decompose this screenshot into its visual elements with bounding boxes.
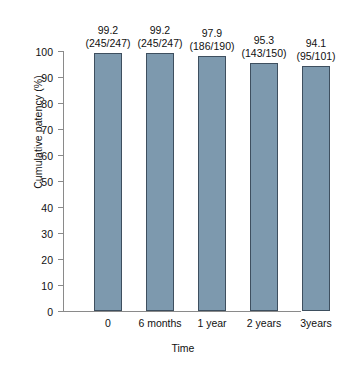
x-axis-tick-label: 6 months	[138, 317, 181, 329]
y-axis-line	[63, 51, 64, 311]
bar-value-label: 99.2(245/247)	[138, 24, 183, 50]
bar-fraction-label: (95/101)	[296, 50, 335, 63]
bar-value-label: 97.9(186/190)	[190, 27, 235, 53]
y-axis-tick-label: 50	[41, 176, 53, 188]
bar-percent-label: 99.2	[86, 24, 131, 37]
bar: 95.3(143/150)	[250, 63, 278, 311]
bar-percent-label: 97.9	[190, 27, 235, 40]
bar-percent-label: 99.2	[138, 24, 183, 37]
bar-fraction-label: (245/247)	[86, 37, 131, 50]
y-axis-tick-label: 80	[41, 98, 53, 110]
bar: 94.1(95/101)	[302, 66, 330, 311]
bar-value-label: 99.2(245/247)	[86, 24, 131, 50]
y-axis-tick: 100	[58, 51, 63, 52]
y-axis-tick-label: 40	[41, 202, 53, 214]
y-axis-tick-label: 70	[41, 124, 53, 136]
plot-area: 1009080706050403020100 99.2(245/247)99.2…	[63, 51, 301, 311]
y-axis-tick: 40	[58, 207, 63, 208]
bar: 99.2(245/247)	[146, 53, 174, 311]
y-axis-tick-label: 60	[41, 150, 53, 162]
bar-fraction-label: (245/247)	[138, 37, 183, 50]
y-axis-tick: 20	[58, 259, 63, 260]
x-axis-title: Time	[58, 342, 308, 354]
y-axis-tick: 70	[58, 129, 63, 130]
bar: 99.2(245/247)	[94, 53, 122, 311]
x-axis-tick-label: 2 years	[247, 317, 281, 329]
y-axis-tick: 30	[58, 233, 63, 234]
bar-fraction-label: (186/190)	[190, 40, 235, 53]
y-axis-tick-label: 20	[41, 254, 53, 266]
y-axis-tick: 50	[58, 181, 63, 182]
bar-percent-label: 95.3	[242, 34, 287, 47]
bar-percent-label: 94.1	[296, 37, 335, 50]
x-axis-line	[63, 311, 301, 312]
y-axis-tick: 0	[58, 311, 63, 312]
y-axis-tick-label: 0	[47, 306, 53, 318]
bar-chart-figure: Cumulative patency (%) Time 100908070605…	[0, 0, 362, 370]
y-axis-tick-label: 100	[35, 46, 53, 58]
y-axis-tick-label: 90	[41, 72, 53, 84]
y-axis-tick-label: 30	[41, 228, 53, 240]
x-axis-tick-label: 0	[105, 317, 111, 329]
y-axis-tick: 60	[58, 155, 63, 156]
y-axis-tick: 10	[58, 285, 63, 286]
y-axis-tick: 80	[58, 103, 63, 104]
bar-value-label: 94.1(95/101)	[296, 37, 335, 63]
x-axis-tick-label: 3years	[300, 317, 332, 329]
bar-value-label: 95.3(143/150)	[242, 34, 287, 60]
y-axis-tick-label: 10	[41, 280, 53, 292]
bar-fraction-label: (143/150)	[242, 47, 287, 60]
y-axis-tick: 90	[58, 77, 63, 78]
bar: 97.9(186/190)	[198, 56, 226, 311]
x-axis-tick-label: 1 year	[197, 317, 226, 329]
